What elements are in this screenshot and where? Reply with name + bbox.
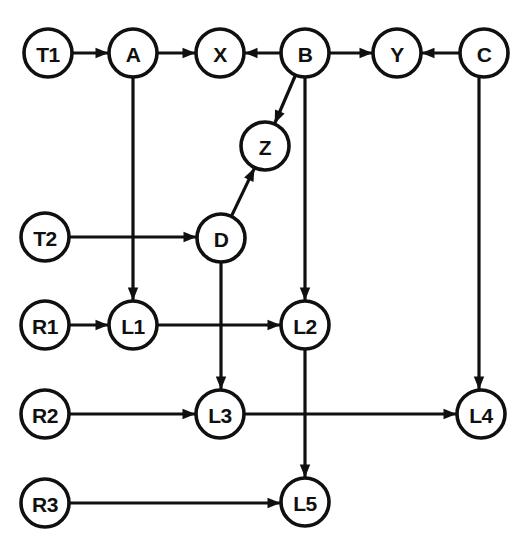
arrowhead-icon [275,109,285,123]
arrowhead-icon [444,409,457,419]
arrowhead-icon [360,48,373,58]
edge-b-to-z [275,76,296,124]
arrowhead-icon [422,48,435,58]
arrowhead-icon [216,377,226,390]
node-r2[interactable]: R2 [21,390,69,438]
edge-r1-to-l1 [70,320,109,330]
edge-r3-to-l5 [70,498,281,508]
node-label: B [298,43,313,66]
arrowhead-icon [183,409,196,419]
node-l3[interactable]: L3 [196,390,244,438]
edge-b-to-l2 [300,78,310,301]
node-label: T2 [33,227,57,250]
edge-c-to-y [422,48,460,58]
edge-c-to-l4 [474,78,484,390]
arrowhead-icon [183,48,196,58]
edges-layer [70,48,485,508]
arrowhead-icon [244,168,254,182]
node-label: A [126,43,141,66]
node-label: L3 [208,404,232,427]
graph-diagram: T1AXBYCZT2DR1L1L2R2L3L4R3L5 [0,0,532,546]
node-label: X [213,43,227,66]
node-label: L2 [293,315,317,338]
node-y[interactable]: Y [373,29,421,77]
node-label: L5 [293,492,317,515]
graph-canvas: T1AXBYCZT2DR1L1L2R2L3L4R3L5 [0,0,532,546]
node-c[interactable]: C [460,29,508,77]
node-label: L4 [469,404,493,427]
edge-a-to-l1 [128,78,138,301]
node-l2[interactable]: L2 [281,301,329,349]
node-label: C [477,43,492,66]
arrowhead-icon [245,48,258,58]
node-l4[interactable]: L4 [457,390,505,438]
node-l5[interactable]: L5 [281,478,329,526]
edge-l3-to-l4 [245,409,457,419]
node-label: Y [390,43,404,66]
node-label: R3 [32,493,58,516]
arrowhead-icon [300,465,310,478]
arrowhead-icon [268,320,281,330]
node-l1[interactable]: L1 [109,301,157,349]
node-label: Z [259,136,272,159]
node-x[interactable]: X [196,29,244,77]
node-z[interactable]: Z [241,122,289,170]
arrowhead-icon [268,498,281,508]
arrowhead-icon [474,377,484,390]
node-t2[interactable]: T2 [21,213,69,261]
node-a[interactable]: A [109,29,157,77]
edge-b-to-y [330,48,373,58]
arrowhead-icon [96,320,109,330]
node-r1[interactable]: R1 [21,301,69,349]
edge-r2-to-l3 [70,409,196,419]
edge-t1-to-a [73,48,109,58]
edge-l1-to-l2 [158,320,281,330]
arrowhead-icon [96,48,109,58]
node-b[interactable]: B [281,29,329,77]
node-label: L1 [121,315,145,338]
node-d[interactable]: D [197,214,245,262]
node-label: R1 [32,315,59,338]
node-label: R2 [32,404,58,427]
arrowhead-icon [300,288,310,301]
arrowhead-icon [128,288,138,301]
node-r3[interactable]: R3 [21,479,69,527]
nodes-layer: T1AXBYCZT2DR1L1L2R2L3L4R3L5 [21,29,508,527]
node-label: D [214,228,229,251]
edge-b-to-x [245,48,281,58]
node-label: T1 [36,43,60,66]
node-t1[interactable]: T1 [24,29,72,77]
edge-a-to-x [158,48,196,58]
arrowhead-icon [184,232,197,242]
edge-d-to-z [232,168,255,216]
